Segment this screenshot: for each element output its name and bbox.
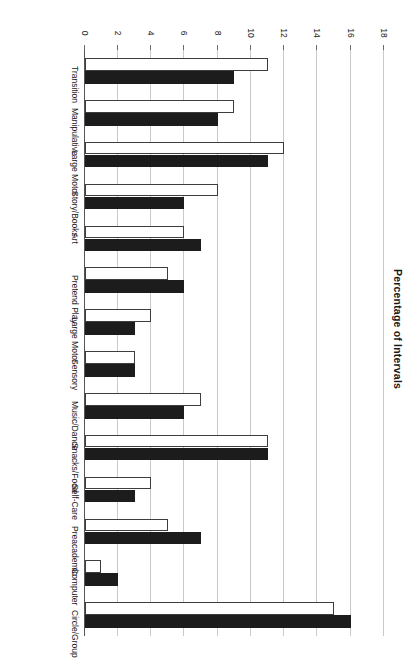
category-label: Manipulative: [70, 108, 80, 156]
bar-group: [85, 510, 384, 552]
bar-series2: [85, 142, 285, 155]
axis-tick-label-8: 8: [213, 21, 223, 45]
bar-series1: [85, 71, 235, 84]
bar-series1: [85, 406, 185, 419]
bar-chart: Percentage of Intervals 024681012141618C…: [0, 0, 413, 658]
bar-series2: [85, 226, 185, 239]
bar-series2: [85, 519, 168, 532]
value-axis-title: Percentage of Intervals: [387, 0, 409, 658]
category-label: Sensory: [70, 359, 80, 390]
bar-series1: [85, 322, 135, 335]
bar-series1: [85, 364, 135, 377]
bar-series1: [85, 490, 135, 503]
bar-series2: [85, 184, 218, 197]
bar-series2: [85, 58, 268, 71]
chart-figure-rotated: Percentage of Intervals 024681012141618C…: [0, 0, 413, 658]
category-label: Circle/Group: [70, 610, 80, 658]
category-label: Story/Books: [70, 192, 80, 238]
axis-tick-label-16: 16: [346, 21, 356, 45]
bar-group: [85, 134, 384, 176]
bar-series1: [85, 113, 218, 126]
axis-tick-label-12: 12: [279, 21, 289, 45]
axis-tick-label-4: 4: [146, 21, 156, 45]
axis-tick-label-2: 2: [113, 21, 123, 45]
category-label: Preacademic: [70, 526, 80, 576]
bar-series2: [85, 393, 201, 406]
category-label: Music/Dance: [70, 401, 80, 450]
bar-series2: [85, 435, 268, 448]
bar-series1: [85, 615, 351, 628]
bar-series2: [85, 477, 152, 490]
bar-series1: [85, 573, 118, 586]
plot-area: 024681012141618Circle/GroupComputerPreac…: [85, 50, 384, 636]
category-label: Pretend Play: [70, 275, 80, 324]
bar-group: [85, 343, 384, 385]
bar-series2: [85, 267, 168, 280]
category-label: Transition: [70, 66, 80, 103]
bar-series1: [85, 155, 268, 168]
bar-series1: [85, 448, 268, 461]
bar-group: [85, 176, 384, 218]
bar-series1: [85, 280, 185, 293]
bar-group: [85, 594, 384, 636]
bar-series2: [85, 100, 235, 113]
bar-series2: [85, 309, 152, 322]
category-label: Large Motor: [70, 150, 80, 196]
bar-series2: [85, 602, 334, 615]
axis-tick-label-14: 14: [313, 21, 323, 45]
bar-group: [85, 552, 384, 594]
bar-group: [85, 469, 384, 511]
bar-series2: [85, 560, 102, 573]
bar-group: [85, 217, 384, 259]
bar-group: [85, 259, 384, 301]
bar-series2: [85, 351, 135, 364]
bar-series1: [85, 532, 201, 545]
bar-series1: [85, 239, 201, 252]
bar-group: [85, 50, 384, 92]
bar-group: [85, 385, 384, 427]
bar-group: [85, 301, 384, 343]
axis-tick-label-6: 6: [179, 21, 189, 45]
bar-group: [85, 92, 384, 134]
axis-tick-label-18: 18: [379, 21, 389, 45]
axis-tick-label-0: 0: [80, 21, 90, 45]
bar-series1: [85, 197, 185, 210]
axis-tick-label-10: 10: [246, 21, 256, 45]
bar-group: [85, 427, 384, 469]
